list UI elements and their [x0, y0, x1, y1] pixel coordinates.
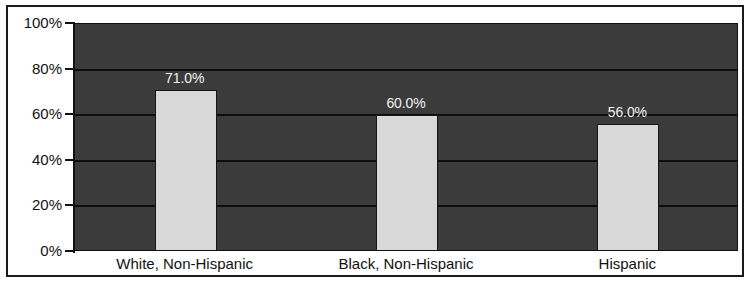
y-axis-tick-mark — [65, 68, 74, 70]
y-axis-tick-label: 40% — [0, 152, 62, 167]
y-axis-tick-mark — [65, 113, 74, 115]
y-axis-tick-label: 0% — [0, 243, 62, 258]
y-axis-tick-mark — [65, 22, 74, 24]
x-axis-category-label: White, Non-Hispanic — [116, 256, 253, 272]
bar-value-label: 56.0% — [567, 105, 687, 119]
bar — [597, 124, 659, 251]
bar-value-label: 71.0% — [125, 71, 245, 85]
bar-value-label: 60.0% — [346, 96, 466, 110]
bar — [155, 90, 217, 251]
x-axis-category-label: Hispanic — [599, 256, 657, 272]
y-axis-tick-label: 20% — [0, 197, 62, 212]
y-axis-tick-mark — [65, 204, 74, 206]
bar-chart-screenshot: 0%20%40%60%80%100% 71.0%60.0%56.0% White… — [0, 0, 752, 285]
y-axis-tick-label: 60% — [0, 106, 62, 121]
y-axis-tick-label: 80% — [0, 61, 62, 76]
x-axis-category-label: Black, Non-Hispanic — [338, 256, 473, 272]
bar — [376, 115, 438, 251]
y-axis-tick-mark — [65, 159, 74, 161]
y-axis-tick-label: 100% — [0, 15, 62, 30]
plot-area — [74, 23, 738, 251]
y-axis-tick-mark — [65, 250, 74, 252]
